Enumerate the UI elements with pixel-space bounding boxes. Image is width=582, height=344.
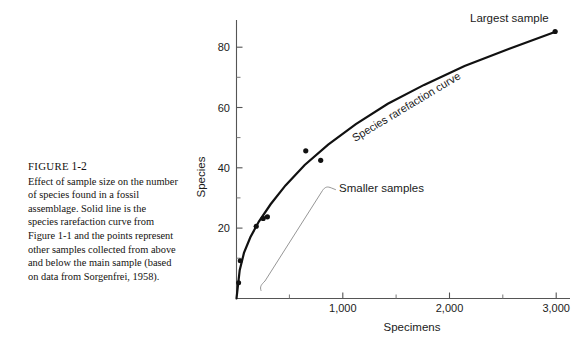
y-tick-label: 20 xyxy=(218,222,230,234)
data-point xyxy=(303,148,308,153)
x-axis-tick-labels: 1,000 2,000 3,000 xyxy=(329,302,570,314)
y-axis-tick-labels: 80 60 40 20 xyxy=(218,41,230,234)
data-point xyxy=(254,224,259,229)
y-tick-label: 40 xyxy=(218,162,230,174)
x-tick-label: 3,000 xyxy=(542,302,570,314)
x-axis-title: Specimens xyxy=(384,321,441,333)
data-point xyxy=(318,158,323,163)
x-tick-label: 1,000 xyxy=(329,302,357,314)
y-axis-title: Species xyxy=(195,156,207,197)
data-points xyxy=(236,29,558,285)
annotation-smaller-samples: Smaller samples xyxy=(339,182,424,194)
chart-axes xyxy=(236,20,570,299)
rarefaction-curve xyxy=(237,31,557,298)
data-point xyxy=(238,258,243,263)
data-point xyxy=(265,214,270,219)
data-point-largest xyxy=(553,29,558,34)
x-axis-minor-ticks xyxy=(289,295,502,299)
annotation-largest-sample: Largest sample xyxy=(470,12,549,24)
y-tick-label: 80 xyxy=(218,41,230,53)
x-tick-label: 2,000 xyxy=(436,302,464,314)
y-tick-label: 60 xyxy=(218,102,230,114)
annotation-curve-label: Species rarefaction curve xyxy=(350,69,463,143)
x-axis-major-ticks xyxy=(343,293,556,299)
data-point xyxy=(236,280,241,285)
figure-container: FIGURE 1-2 Effect of sample size on the … xyxy=(0,0,582,344)
chart-plot: 80 60 40 20 Species 1,000 2 xyxy=(0,0,582,344)
